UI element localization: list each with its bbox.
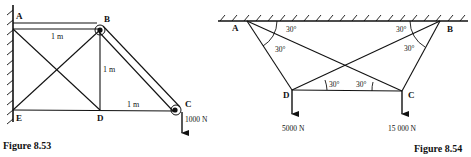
pin-C [171, 105, 181, 115]
angle-label-B-inner: 30° [404, 44, 415, 53]
angle-label-B-top: 30° [396, 25, 407, 34]
angle-label-A-inner: 30° [275, 45, 286, 54]
angle-label-C: 30° [356, 80, 367, 89]
load-label-C: 1000 N [185, 115, 208, 124]
truss-members [13, 23, 180, 111]
figure-caption-8-53: Figure 8.53 [3, 140, 51, 151]
node-label-C: C [408, 90, 415, 100]
truss-diagrams: A B C D E 1 m 1 m 1 m 1000 N Figure 8.53 [0, 0, 471, 157]
truss-members [247, 21, 440, 91]
figure-8-53 [7, 5, 182, 133]
node-label-E: E [16, 113, 22, 123]
dimension-DC: 1 m [127, 100, 140, 109]
node-label-A: A [232, 23, 239, 33]
node-label-C: C [185, 99, 192, 109]
node-label-D: D [283, 90, 290, 100]
figure-8-54 [218, 15, 468, 114]
dimension-BD: 1 m [103, 65, 116, 74]
node-label-D: D [97, 113, 104, 123]
angle-label-A-top: 30° [286, 25, 297, 34]
figure-8-53-labels: A B C D E 1 m 1 m 1 m 1000 N Figure 8.53 [3, 11, 208, 151]
angle-label-D: 30° [329, 80, 340, 89]
load-label-C: 15 000 N [388, 124, 417, 133]
node-label-B: B [104, 14, 110, 24]
ceiling-support [218, 15, 468, 21]
node-label-A: A [16, 11, 23, 21]
dimension-AB: 1 m [51, 32, 64, 41]
node-label-B: B [447, 24, 453, 34]
figure-caption-8-54: Figure 8.54 [414, 143, 462, 154]
load-label-D: 5000 N [282, 124, 305, 133]
wall-support [7, 5, 13, 124]
